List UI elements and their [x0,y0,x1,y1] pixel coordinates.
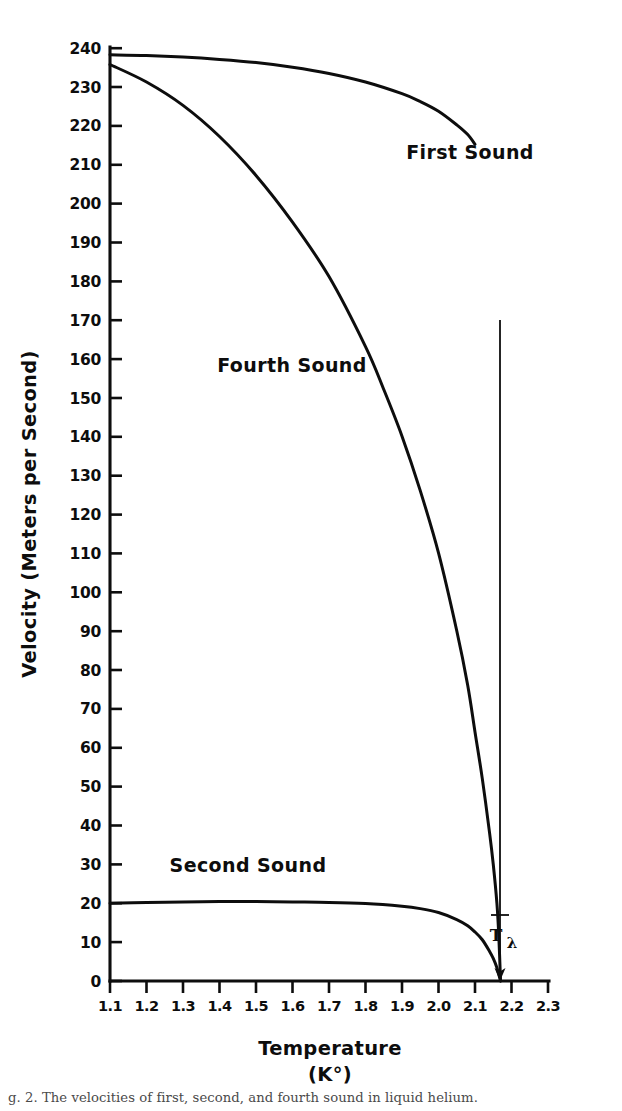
y-tick-label: 70 [80,700,101,718]
y-tick-label: 30 [80,856,101,874]
y-tick-label: 190 [70,234,102,252]
curve-second-sound [110,902,501,981]
x-tick-label: 1.6 [281,998,305,1014]
x-tick-label: 2.0 [427,998,451,1014]
sound-velocity-chart: 0 10 20 30 40 50 60 70 80 90 100 110 120… [0,0,622,1111]
x-axis-units: (K°) [308,1063,352,1086]
data-curves-group [110,55,501,981]
y-tick-label: 150 [70,390,102,408]
x-tick-label: 2.1 [463,998,487,1014]
x-tick-labels-group: 1.1 1.2 1.3 1.4 1.5 1.6 1.7 1.8 1.9 2.0 … [98,998,560,1014]
y-tick-label: 100 [70,584,102,602]
y-tick-label: 230 [70,79,102,97]
figure-caption-strip: g. 2. The velocities of first, second, a… [0,1092,622,1111]
y-tick-label: 90 [80,623,101,641]
y-tick-label: 40 [80,817,101,835]
lambda-label-T: T [490,925,503,945]
curve-first-sound [110,55,475,145]
y-axis-title: Velocity (Meters per Second) [18,350,41,677]
y-tick-label: 140 [70,428,102,446]
label-first-sound: First Sound [406,141,534,163]
x-tick-label: 1.4 [208,998,232,1014]
y-tick-label: 180 [70,273,102,291]
x-tick-label: 1.7 [317,998,341,1014]
y-tick-label: 170 [70,312,102,330]
figure-container: 0 10 20 30 40 50 60 70 80 90 100 110 120… [0,0,622,1111]
curve-fourth-sound [110,65,501,981]
x-tick-label: 1.2 [135,998,159,1014]
y-tick-label: 80 [80,662,101,680]
y-ticks-group [110,48,122,981]
y-tick-label: 20 [80,895,101,913]
y-tick-label: 210 [70,156,102,174]
lambda-label-subscript: λ [507,934,518,952]
label-second-sound: Second Sound [170,854,327,876]
y-tick-label: 110 [70,545,102,563]
axis-titles-group: Temperature (K°) Velocity (Meters per Se… [18,350,402,1086]
x-tick-label: 1.3 [171,998,195,1014]
x-axis-title: Temperature [258,1037,402,1060]
x-tick-label: 2.3 [536,998,560,1014]
x-tick-label: 1.8 [354,998,378,1014]
y-tick-label: 200 [70,195,102,213]
y-tick-label: 240 [70,40,102,58]
x-tick-label: 2.2 [500,998,524,1014]
x-tick-label: 1.1 [98,998,122,1014]
y-tick-label: 130 [70,467,102,485]
y-tick-label: 120 [70,506,102,524]
y-tick-label: 50 [80,778,101,796]
x-tick-label: 1.5 [244,998,268,1014]
x-ticks-group [110,981,548,993]
x-tick-label: 1.9 [390,998,414,1014]
label-fourth-sound: Fourth Sound [217,354,367,376]
y-tick-label: 10 [80,934,101,952]
y-tick-label: 0 [91,973,102,991]
axes-group [110,47,549,981]
figure-caption: g. 2. The velocities of first, second, a… [8,1092,618,1105]
y-tick-label: 160 [70,351,102,369]
y-tick-label: 60 [80,739,101,757]
y-tick-label: 220 [70,117,102,135]
y-tick-labels-group: 0 10 20 30 40 50 60 70 80 90 100 110 120… [70,40,102,991]
